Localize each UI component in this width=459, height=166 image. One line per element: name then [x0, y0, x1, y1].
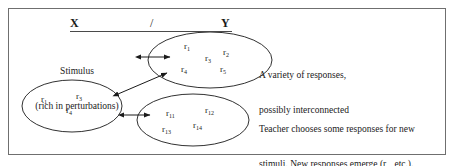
node-label-top-r5-sub: 5 — [223, 69, 226, 75]
node-label-top-r4: r4 — [181, 64, 187, 74]
node-label-bottom-r14: r14 — [193, 120, 202, 130]
node-label-top-r4-sub: 4 — [184, 69, 187, 75]
node-label-bottom-r13-sub: 13 — [165, 129, 171, 135]
caption-teacher-line-2: stimuli. New responses emerge (r11 etc.)… — [259, 159, 449, 166]
node-label-top-r2: r2 — [223, 47, 229, 57]
node-label-bottom-r14-sub: 14 — [196, 125, 202, 131]
stimulus-line-1: Stimulus — [18, 66, 136, 78]
node-label-bottom-r12: r12 — [205, 105, 214, 115]
node-label-top-r1: r1 — [184, 41, 190, 51]
caption-teacher-line-2-b: etc.). — [392, 159, 413, 166]
caption-teacher: Teacher chooses some responses for new s… — [259, 101, 449, 166]
node-label-top-r1-sub: 1 — [187, 46, 190, 52]
stimulus-block: Stimulus (rich in perturbations) — [18, 43, 136, 136]
node-label-left-r4: r4 — [66, 105, 72, 115]
node-label-left-r3-sub: 3 — [79, 96, 82, 102]
node-label-left-r3: r3 — [76, 91, 82, 101]
node-label-top-r2-sub: 2 — [226, 52, 229, 58]
diagram-canvas: X / Y Stimulus (rich in perturbations) A… — [0, 0, 459, 166]
node-label-bottom-r11: r11 — [166, 108, 175, 118]
node-label-bottom-r13: r13 — [162, 124, 171, 134]
stimulus-line-2: (rich in perturbations) — [18, 101, 136, 113]
header-separator: / — [150, 16, 153, 31]
header-label-x: X — [70, 16, 79, 31]
node-label-left-r1: r1 — [41, 94, 47, 104]
caption-teacher-line-2-a: stimuli. New responses emerge (r — [259, 159, 386, 166]
caption-teacher-line-1: Teacher chooses some responses for new — [259, 124, 449, 136]
node-label-top-r3-sub: 3 — [208, 58, 211, 64]
node-label-top-r3: r3 — [205, 53, 211, 63]
node-label-bottom-r11-sub: 11 — [169, 113, 175, 119]
caption-responses-line-1: A variety of responses, — [259, 70, 419, 82]
header-underline — [70, 31, 232, 32]
node-label-left-r4-sub: 4 — [69, 110, 72, 116]
node-label-left-r1-sub: 1 — [44, 99, 47, 105]
node-label-top-r5: r5 — [220, 64, 226, 74]
header-label-y: Y — [221, 16, 230, 31]
node-label-bottom-r12-sub: 12 — [208, 110, 214, 116]
